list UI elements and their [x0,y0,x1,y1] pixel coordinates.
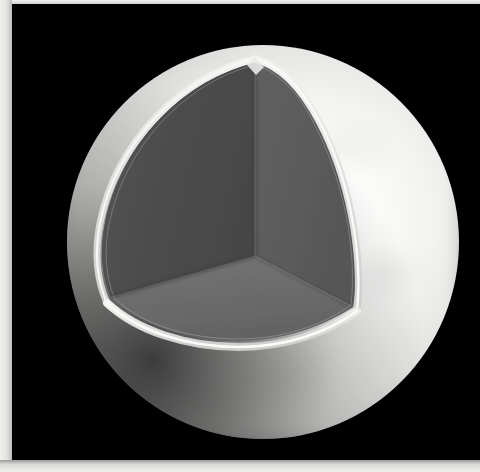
figure-caption [14,462,474,472]
scan-left-margin [0,0,12,462]
octant-cutaway [67,45,459,439]
illustration-plate [12,4,480,460]
planetary-body [67,45,459,439]
figure-page [0,0,480,472]
